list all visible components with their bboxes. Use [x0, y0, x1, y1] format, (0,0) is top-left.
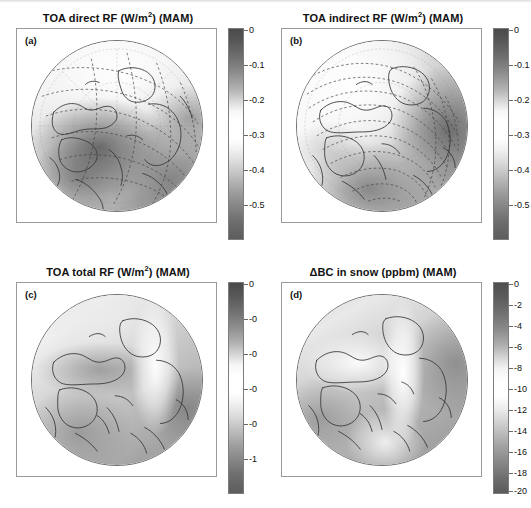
panel-b-frame: (b): [281, 28, 482, 223]
panel-c-tick-4: -0: [249, 419, 257, 429]
panel-b-title-main: TOA indirect RF (W/m: [303, 12, 418, 24]
panel-c-overlay: [32, 295, 202, 465]
panel-d-tag: (d): [290, 289, 302, 300]
panel-b-tick-1: -0.1: [514, 60, 530, 70]
panel-c-tick-2: -0: [249, 349, 257, 359]
panel-a-graticule: [40, 49, 194, 203]
panel-b-graticule: [305, 49, 459, 203]
panel-b-overlay: [297, 41, 467, 211]
panel-c-tag: (c): [25, 289, 37, 300]
panel-a-title-main: TOA direct RF (W/m: [43, 12, 148, 24]
panel-c-frame: (c): [16, 282, 217, 477]
panel-d-tick-3: -6: [514, 342, 522, 352]
panel-b-tag: (b): [290, 35, 302, 46]
panel-a-tick-1: -0.1: [249, 60, 265, 70]
panel-d-tick-0: 0: [514, 279, 519, 289]
panel-a-tick-5: -0.5: [249, 200, 265, 210]
panel-b-contours: [305, 63, 459, 205]
panel-d-frame: (d): [281, 282, 482, 477]
panel-d-overlay: [297, 295, 467, 465]
panel-d-title: ΔBC in snow (ppbm) (MAM): [265, 266, 501, 278]
panel-d-tick-4: -8: [514, 363, 522, 373]
panel-b-map: [296, 40, 468, 212]
panel-d-tick-9: -18: [514, 468, 527, 478]
panel-c-tick-1: -0: [249, 314, 257, 324]
panel-b-tick-4: -0.4: [514, 165, 530, 175]
panel-c-title: TOA total RF (W/m2) (MAM): [0, 266, 236, 278]
panel-c-colorbar-gradient: [228, 282, 244, 494]
panel-d-tick-6: -12: [514, 405, 527, 415]
panel-a-overlay: [32, 41, 202, 211]
panel-a-coastlines: [48, 68, 192, 209]
panel-a-tag: (a): [25, 35, 37, 46]
panel-a-title: TOA direct RF (W/m2) (MAM): [0, 12, 236, 24]
panel-d-tick-2: -4: [514, 321, 522, 331]
panel-b-tick-5: -0.5: [514, 200, 530, 210]
panel-a-frame: (a): [16, 28, 217, 223]
panel-d-title-main: ΔBC in snow (ppbm) (MAM): [309, 266, 456, 278]
panel-d-tick-10: -20: [514, 486, 527, 496]
panel-a-tick-4: -0.4: [249, 165, 265, 175]
panel-c-colorbar: 0 -0 -0 -0 -0 -1: [228, 282, 244, 494]
panel-d-tick-1: -2: [514, 300, 522, 310]
panel-d-colorbar: 0 -2 -4 -6 -8 -10 -12 -14 -16 -18 -20: [493, 282, 509, 494]
panel-b-colorbar: 0 -0.1 -0.2 -0.3 -0.4 -0.5: [493, 28, 509, 240]
panel-a-colorbar-gradient: [228, 28, 244, 240]
panel-d-map: [296, 294, 468, 466]
panel-b-tick-0: 0: [514, 25, 519, 35]
panel-d-coastlines: [309, 317, 451, 451]
panel-d-colorbar-gradient: [493, 282, 509, 494]
panel-b-tick-2: -0.2: [514, 95, 530, 105]
panel-a-colorbar: 0 -0.1 -0.2 -0.3 -0.4 -0.5: [228, 28, 244, 240]
panel-d-tick-5: -10: [514, 384, 527, 394]
panel-b-colorbar-gradient: [493, 28, 509, 240]
panel-b-tick-3: -0.3: [514, 130, 530, 140]
panel-b-title: TOA indirect RF (W/m2) (MAM): [265, 12, 501, 24]
panel-d-tick-7: -14: [514, 426, 527, 436]
panel-c-title-main: TOA total RF (W/m: [46, 266, 144, 278]
figure-panel-grid: TOA direct RF (W/m2) (MAM) (a): [0, 0, 531, 508]
panel-c-tick-0: 0: [249, 279, 254, 289]
panel-b-coastlines: [313, 67, 455, 200]
panel-b-title-tail: ) (MAM): [422, 12, 463, 24]
panel-c-tick-5: -1: [249, 454, 257, 464]
panel-d-tick-8: -16: [514, 447, 527, 457]
panel-c-coastlines: [46, 319, 188, 453]
panel-a-map: [31, 40, 203, 212]
panel-a-tick-0: 0: [249, 25, 254, 35]
panel-c-title-tail: ) (MAM): [149, 266, 190, 278]
panel-c-tick-3: -0: [249, 384, 257, 394]
panel-a-tick-3: -0.3: [249, 130, 265, 140]
panel-a-title-tail: ) (MAM): [152, 12, 193, 24]
panel-a-tick-2: -0.2: [249, 95, 265, 105]
panel-c-map: [31, 294, 203, 466]
